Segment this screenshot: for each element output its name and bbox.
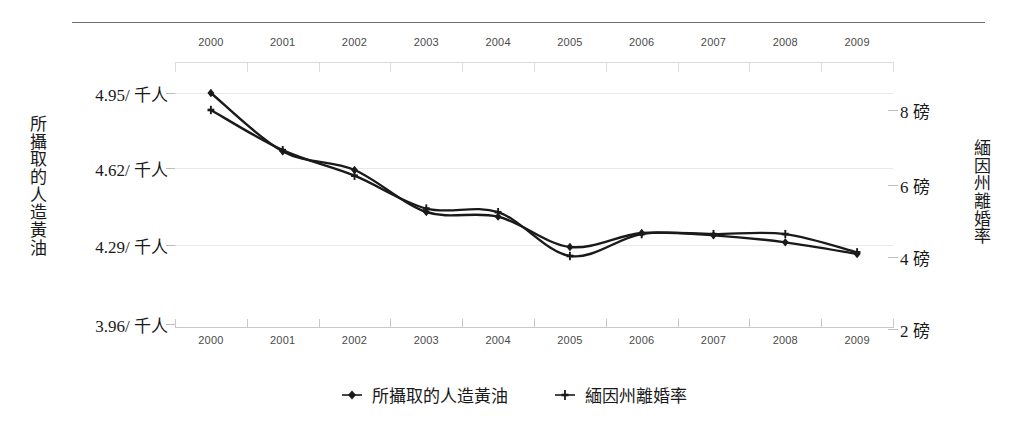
- x-axis-tick-label: 2002: [342, 334, 367, 346]
- legend: 所攝取的人造黃油 緬因州離婚率: [0, 382, 1028, 407]
- left-axis-tick: [166, 93, 175, 94]
- x-axis-tick-label: 2000: [198, 334, 223, 346]
- data-point-marker: [208, 106, 215, 114]
- cross-icon: [554, 388, 576, 402]
- data-point-marker: [567, 252, 574, 260]
- right-axis-tick-labels: 8 磅 6 磅 4 磅 2 磅: [900, 0, 970, 442]
- x-axis-tick-label: 2007: [701, 36, 726, 48]
- x-axis-tick-label: 2003: [414, 334, 439, 346]
- left-axis-tick-label: 3.96/ 千人: [95, 312, 168, 337]
- data-point-marker: [782, 238, 789, 246]
- x-axis-tick-label: 2005: [557, 334, 582, 346]
- x-axis-tick-label: 2003: [414, 36, 439, 48]
- left-axis-tick-label: 4.62/ 千人: [95, 156, 168, 181]
- x-axis-tick-label: 2004: [485, 36, 510, 48]
- x-axis-tick-label: 2005: [557, 36, 582, 48]
- legend-label: 緬因州離婚率: [585, 382, 687, 407]
- left-axis-tick-labels: 4.95/ 千人 4.62/ 千人 4.29/ 千人 3.96/ 千人: [0, 0, 168, 442]
- data-point-marker: [710, 230, 717, 238]
- right-axis-tick-label: 6 磅: [900, 173, 930, 198]
- right-axis-title: 緬因州離婚率: [972, 140, 992, 246]
- x-tick-bottom: [893, 319, 894, 328]
- legend-item-divorce[interactable]: 緬因州離婚率: [554, 382, 687, 407]
- data-point-marker: [638, 230, 645, 238]
- left-axis-tick-label: 4.29/ 千人: [95, 233, 168, 258]
- legend-item-margarine[interactable]: 所攝取的人造黃油: [341, 382, 508, 407]
- header-rule: [72, 22, 985, 23]
- x-axis-tick-label: 2007: [701, 334, 726, 346]
- x-axis-tick-label: 2002: [342, 36, 367, 48]
- x-axis-tick-label: 2001: [270, 334, 295, 346]
- plot-area: [175, 62, 893, 328]
- right-axis-tick-label: 8 磅: [900, 98, 930, 123]
- x-axis-tick-label: 2008: [773, 334, 798, 346]
- right-axis-tick: [888, 329, 898, 330]
- series-line: [211, 110, 857, 256]
- data-point-marker: [782, 230, 789, 238]
- x-axis-tick-label: 2009: [844, 36, 869, 48]
- right-axis-tick-label: 2 磅: [900, 317, 930, 342]
- x-axis-tick-label: 2004: [485, 334, 510, 346]
- x-axis-tick-label: 2006: [629, 334, 654, 346]
- data-point-marker: [566, 243, 573, 251]
- x-axis-labels-top: 2000200120022003200420052006200720082009: [175, 36, 893, 52]
- left-axis-tick-label: 4.95/ 千人: [95, 81, 168, 106]
- data-point-marker: [351, 172, 358, 180]
- left-axis-title: 所攝取的人造黃油: [28, 116, 48, 257]
- x-axis-tick-label: 2006: [629, 36, 654, 48]
- filled-diamond-icon: [341, 388, 363, 402]
- left-axis-tick: [166, 168, 175, 169]
- x-axis-tick-label: 2000: [198, 36, 223, 48]
- series-lines: [175, 62, 893, 328]
- x-axis-tick-label: 2009: [844, 334, 869, 346]
- right-axis-tick-label: 4 磅: [900, 245, 930, 270]
- x-axis-tick-label: 2001: [270, 36, 295, 48]
- x-tick-top: [893, 62, 894, 72]
- x-axis-tick-label: 2008: [773, 36, 798, 48]
- series-line: [211, 93, 857, 254]
- chart-root: 4.95/ 千人 4.62/ 千人 4.29/ 千人 3.96/ 千人 所攝取的…: [0, 0, 1028, 442]
- left-axis-tick: [166, 324, 175, 325]
- legend-label: 所攝取的人造黃油: [372, 382, 508, 407]
- x-axis-labels-bottom: 2000200120022003200420052006200720082009: [175, 334, 893, 350]
- left-axis-tick: [166, 245, 175, 246]
